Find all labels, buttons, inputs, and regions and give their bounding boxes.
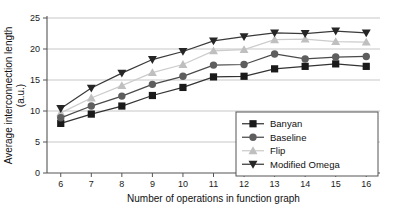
x-tick-label-14: 14 [300,179,310,189]
data-point [117,81,126,89]
data-point [332,53,339,60]
chart-container: 678910111213141516 0510152025 Number of … [0,0,396,223]
data-point [118,102,125,109]
data-point [240,73,247,80]
data-point [210,61,217,68]
data-point [118,92,125,99]
x-tick-label-12: 12 [239,179,249,189]
legend-label: Modified Omega [270,159,340,170]
y-tick-label-15: 15 [30,75,40,85]
y-axis-title-line2: (a.u.) [15,84,26,107]
data-point [149,92,156,99]
x-tick-label-15: 15 [331,179,341,189]
y-axis-ticks [43,18,47,173]
y-tick-label-0: 0 [35,168,40,178]
y-tick-label-5: 5 [35,137,40,147]
legend-marker-circle [249,134,256,141]
line-chart: 678910111213141516 0510152025 Number of … [0,0,396,223]
y-tick-label-10: 10 [30,106,40,116]
data-point [302,63,309,70]
chart-legend: BanyanBaselineFlipModified Omega [236,112,378,176]
x-tick-label-11: 11 [209,179,218,189]
data-point [88,111,95,118]
x-axis-tick-labels: 678910111213141516 [58,179,371,189]
data-point [88,102,95,109]
y-tick-label-20: 20 [30,44,40,54]
legend-marker-square [249,120,256,127]
data-point [179,84,186,91]
data-point [179,73,186,80]
y-tick-label-25: 25 [30,13,40,23]
data-point [362,29,371,37]
x-tick-label-16: 16 [361,179,371,189]
x-tick-label-13: 13 [270,179,280,189]
data-point [117,70,126,78]
data-point [271,50,278,57]
x-tick-label-8: 8 [119,179,124,189]
data-point [148,56,157,64]
data-point [178,60,187,68]
data-point [240,61,247,68]
data-point [149,81,156,88]
x-tick-label-7: 7 [89,179,94,189]
x-tick-label-6: 6 [58,179,63,189]
legend-label: Baseline [270,132,306,143]
x-tick-label-10: 10 [178,179,188,189]
data-point [271,65,278,72]
x-tick-label-9: 9 [150,179,155,189]
legend-label: Flip [270,145,285,156]
data-point [363,53,370,60]
y-axis-tick-labels: 0510152025 [30,13,40,178]
x-axis-title: Number of operations in function graph [127,193,300,204]
data-point [332,60,339,67]
data-point [87,85,96,93]
data-point [363,63,370,70]
data-point [57,114,64,121]
y-axis-title-line1: Average interconnection length [3,27,14,165]
data-point [87,94,96,102]
data-point [301,55,308,62]
data-point [210,73,217,80]
legend-label: Banyan [270,118,302,129]
